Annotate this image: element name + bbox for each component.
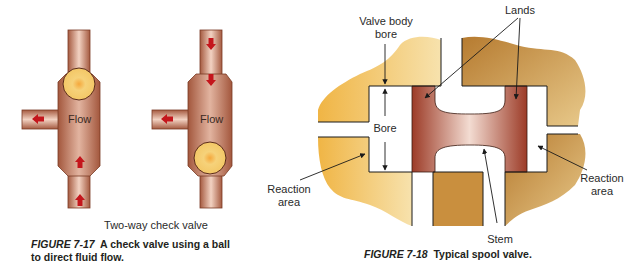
flow-label-1: Flow — [68, 113, 91, 125]
caption-text: Typical spool valve. — [433, 248, 531, 260]
figure-7-17-caption: FIGURE 7-17 A check valve using a ball t… — [31, 238, 261, 264]
caption-text: A check valve using a ball — [100, 238, 230, 250]
figure-number: FIGURE 7-18 — [364, 248, 428, 260]
stem-label: Stem — [485, 233, 515, 246]
figure-7-18-caption: FIGURE 7-18 Typical spool valve. — [364, 248, 624, 261]
spool-valve — [300, 18, 587, 226]
two-way-check-valve-label: Two-way check valve — [96, 219, 216, 232]
figure-number: FIGURE 7-17 — [31, 238, 95, 250]
flow-label-2: Flow — [200, 113, 223, 125]
caption-text: to direct fluid flow. — [31, 251, 124, 263]
reaction-area-left-label: Reaction area — [264, 183, 314, 209]
bore-label: Bore — [369, 122, 401, 135]
reaction-area-right-label: Reaction area — [577, 172, 627, 198]
lands-label: Lands — [500, 4, 540, 17]
valve-body-bore-label: Valve body bore — [350, 15, 422, 41]
